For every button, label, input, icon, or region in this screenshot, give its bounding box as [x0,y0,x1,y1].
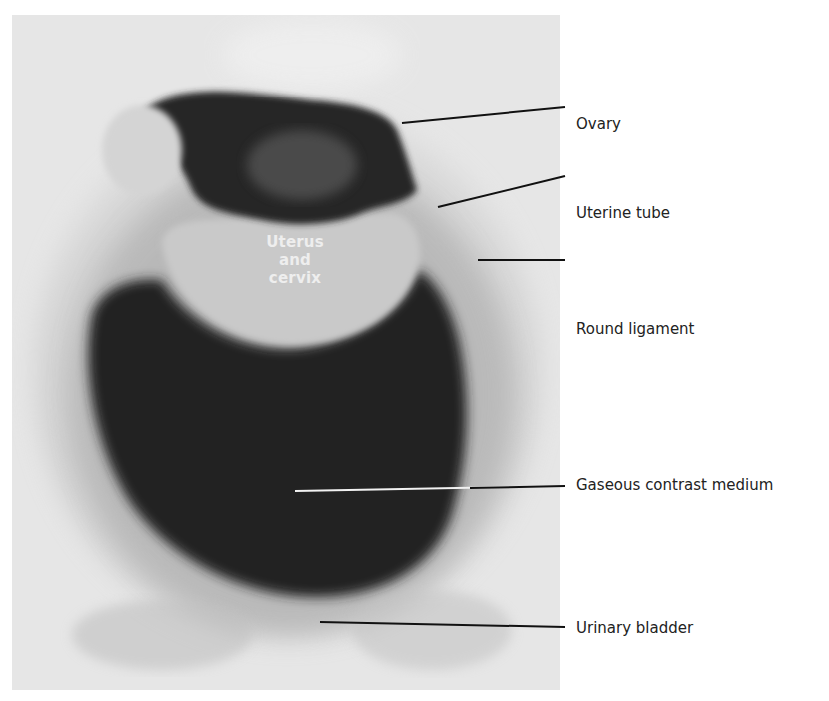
label-uterine-tube: Uterine tube [576,204,670,222]
leader-uterine-tube [438,176,565,207]
label-gaseous-contrast-medium: Gaseous contrast medium [576,476,773,494]
leader-urinary-bladder [320,622,565,627]
leader-lines [0,0,829,701]
leader-gaseous-contrast-medium-ext [470,486,565,488]
label-round-ligament: Round ligament [576,320,695,338]
leader-ovary [402,107,565,123]
label-ovary: Ovary [576,115,621,133]
label-urinary-bladder: Urinary bladder [576,619,693,637]
